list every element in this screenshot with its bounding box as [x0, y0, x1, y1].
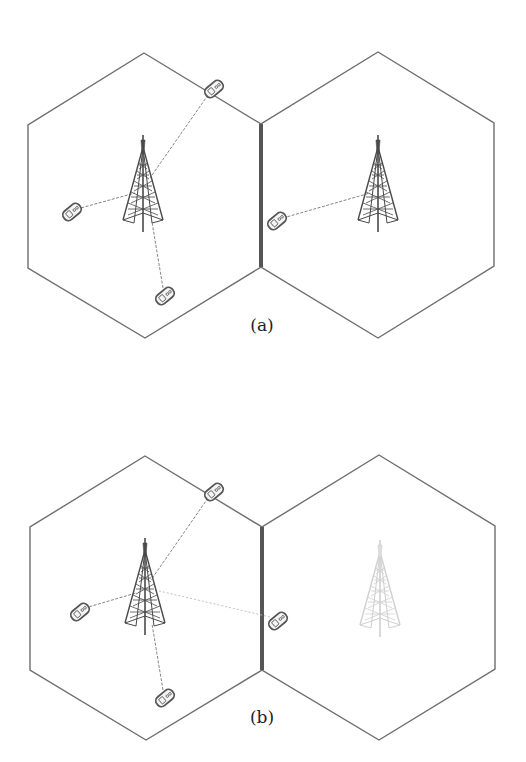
hexagon-cell-right: [262, 455, 495, 740]
panel-a: [28, 52, 494, 338]
panel-b: [30, 455, 495, 740]
mobile-phone-icon: [61, 201, 83, 222]
mobile-phone-icon: [266, 210, 288, 231]
mobile-phone-icon: [69, 601, 91, 622]
base-station-tower-icon: [123, 135, 163, 232]
hexagon-cell-left: [28, 53, 261, 338]
cellular-diagram: [0, 0, 526, 762]
panel-label-a: (a): [250, 315, 273, 335]
inactive-tower-icon: [360, 540, 400, 637]
mobile-phone-icon: [203, 481, 225, 502]
radio-links: [85, 498, 208, 690]
base-station-tower-icon: [125, 538, 165, 635]
panel-label-b: (b): [250, 707, 274, 727]
base-station-tower-icon: [358, 135, 398, 232]
hexagon-cell-left: [30, 456, 262, 740]
mobile-phone-icon: [267, 610, 289, 631]
mobile-phone-icon: [203, 78, 225, 99]
mobile-phone-icon: [154, 687, 176, 708]
radio-links: [77, 95, 370, 288]
radio-link-faded: [155, 590, 270, 617]
mobile-phone-icon: [154, 285, 176, 306]
